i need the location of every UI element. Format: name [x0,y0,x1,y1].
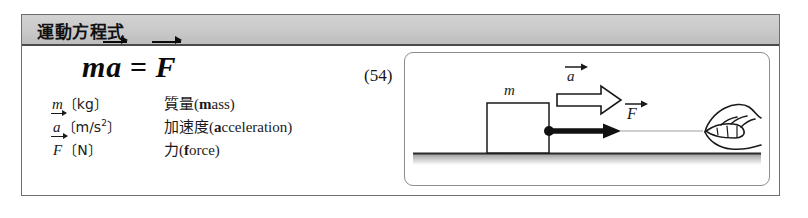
legend-term-ja: 加速度 [164,118,209,136]
equation-figure-card: 運動方程式 ma = F (54) m〔kg〕 質量(mass) a〔m/s2〕 [21,14,780,196]
legend-row: F〔N〕 力(force) [52,138,397,161]
legend-symbol: a〔m/s2〕 [52,116,164,136]
equation-column: ma = F (54) m〔kg〕 質量(mass) a〔m/s2〕 加速度(a… [22,46,400,195]
motion-equation: ma = F (54) [82,50,176,84]
legend-unit-text: N [77,142,87,158]
legend-row: a〔m/s2〕 加速度(acceleration) [52,115,397,138]
legend-term-ja: 質量 [164,95,194,113]
legend-description: 力(force) [164,138,220,159]
force-diagram-panel: m a F [404,52,770,186]
acceleration-arrow [557,86,621,114]
equation-mass-symbol: m [82,50,105,83]
force-label-arrow-head [641,101,648,108]
acceleration-label: a [565,64,588,84]
force-label-glyph: F [626,105,637,122]
ground-shadow [413,154,761,165]
mass-block [487,103,549,153]
legend-row: m〔kg〕 質量(mass) [52,92,397,115]
legend-term-en-rest: ass [212,96,230,112]
legend-unit-text: m/s [76,119,102,135]
figure-title-bar: 運動方程式 [22,15,779,46]
equation-force-vector: F [154,50,176,84]
legend-term-ja: 力 [164,141,179,159]
legend-symbol: F〔N〕 [52,139,164,159]
legend-term-en: (mass) [194,96,235,112]
legend-description: 質量(mass) [164,92,235,113]
force-diagram-svg: m a F [405,53,769,185]
legend-term-en-initial: m [199,96,212,112]
pulling-hand-icon [705,104,761,149]
legend-term-en-rest: orce [189,142,215,158]
legend-symbol-glyph: a [52,119,62,136]
legend-symbol-glyph: F [52,142,63,159]
legend-unit-close: 〕 [88,142,102,158]
force-arrow [549,124,621,139]
force-label: F [625,101,648,122]
equation-equals-sign: = [130,50,147,83]
figure-title: 運動方程式 [37,17,125,42]
legend-unit-text: kg [77,96,94,112]
acceleration-label-glyph: a [567,68,575,84]
legend-description: 加速度(acceleration) [164,115,292,136]
acceleration-label-arrow-head [581,64,588,71]
legend-unit: 〔m/s2〕 [62,119,121,135]
motion-speed-lines [429,109,487,145]
equation-acceleration-vector: a [105,50,122,84]
legend-unit-close: 〕 [107,119,121,135]
equation-number: (54) [364,66,392,86]
legend-term-en: (force) [179,142,220,158]
figure-body: ma = F (54) m〔kg〕 質量(mass) a〔m/s2〕 加速度(a… [22,46,779,195]
mass-block-label: m [504,82,515,98]
symbol-legend: m〔kg〕 質量(mass) a〔m/s2〕 加速度(acceleration)… [52,92,397,161]
legend-symbol: m〔kg〕 [52,93,164,113]
legend-unit: 〔N〕 [63,142,101,158]
legend-term-en: (acceleration) [209,119,292,135]
legend-unit-open: 〔 [63,142,77,158]
legend-unit-close: 〕 [94,96,108,112]
legend-term-en-initial: a [214,119,222,135]
legend-unit: 〔kg〕 [63,96,108,112]
legend-term-en-rest: cceleration [222,119,288,135]
